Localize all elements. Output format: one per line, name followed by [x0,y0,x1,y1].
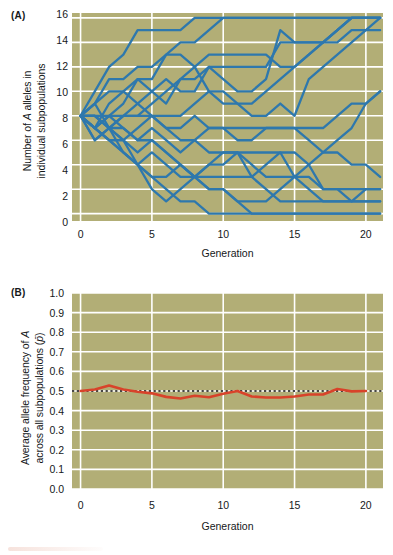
x-tick-label: 20 [351,228,381,240]
scan-artifact [8,547,103,551]
panel-b-x-tick-labels: 05101520 [72,499,383,513]
x-tick-label: 0 [66,499,96,511]
x-tick-label: 0 [66,228,96,240]
y-tick-label: 0.1 [38,464,64,474]
y-tick-label: 0.3 [38,425,64,435]
x-tick-label: 10 [208,228,238,240]
panel-a-x-tick-labels: 05101520 [72,228,383,242]
y-tick-label: 0.5 [38,386,64,396]
y-tick-label: 6 [42,139,68,149]
panel-b-chart-svg [72,293,383,489]
y-tick-label: 0.8 [38,327,64,337]
y-tick-label: 2 [42,191,68,201]
y-tick-label: 0.6 [38,366,64,376]
x-tick-label: 15 [280,499,310,511]
y-tick-label: 0.7 [38,347,64,357]
panel-b: (B) Average allele frequency of A across… [0,277,393,555]
genetic-drift-figure: (A) Number of A alleles in individual su… [0,0,393,555]
y-tick-label: 14 [42,35,68,45]
y-tick-label: 4 [42,165,68,175]
panel-b-y-tick-labels: 1.00.90.80.70.60.50.40.30.20.10.0 [34,277,64,555]
panel-a-y-tick-labels: 16 14 12 10 8 6 4 2 0 [38,0,68,272]
y-tick-label: 16 [42,9,68,19]
panel-a-x-axis-label: Generation [72,247,383,259]
y-tick-label: 10 [42,87,68,97]
x-tick-label: 5 [137,228,167,240]
panel-a-chart-svg [72,13,383,221]
x-tick-label: 20 [351,499,381,511]
x-tick-label: 10 [208,499,238,511]
y-tick-label: 12 [42,61,68,71]
y-tick-label: 0.2 [38,445,64,455]
panel-a-plot-area [72,13,383,221]
panel-b-plot-area [72,293,383,489]
y-tick-label: 1.0 [38,288,64,298]
x-tick-label: 15 [280,228,310,240]
x-tick-label: 5 [137,499,167,511]
y-tick-label: 0.9 [38,308,64,318]
panel-a: (A) Number of A alleles in individual su… [0,0,393,272]
y-tick-label: 8 [42,113,68,123]
y-tick-label: 0 [42,217,68,227]
y-tick-label: 0.4 [38,406,64,416]
y-tick-label: 0.0 [38,484,64,494]
panel-b-x-axis-label: Generation [72,520,383,532]
